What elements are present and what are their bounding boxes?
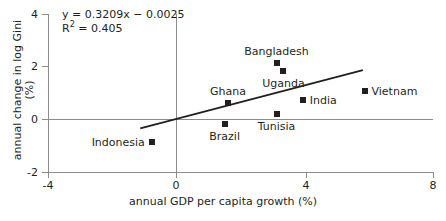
data-point-marker <box>280 68 286 74</box>
data-point-marker <box>274 111 280 117</box>
y-tick-mark <box>42 14 48 15</box>
data-point-marker <box>149 139 155 145</box>
data-point-label: Vietnam <box>372 86 418 97</box>
scatter-chart: 4 2 0 -2 -4 0 4 8 annual GDP per capita … <box>0 0 446 221</box>
data-point-marker <box>274 60 280 66</box>
y-zero-reference-line <box>48 119 433 120</box>
x-tick-label: 4 <box>303 180 310 191</box>
data-point-label: India <box>310 95 337 106</box>
y-axis-spine <box>48 14 49 172</box>
regression-annotation: y = 0.3209x − 0.0025 R2 = 0.405 <box>62 8 184 36</box>
x-zero-reference-line <box>176 14 177 172</box>
x-axis-spine <box>48 172 433 173</box>
data-point-label: Ghana <box>210 86 246 97</box>
data-point-marker <box>300 97 306 103</box>
data-point-label: Tunisia <box>258 121 296 132</box>
r-squared-prefix: R <box>62 22 70 35</box>
y-tick-mark <box>42 66 48 67</box>
x-tick-label: -4 <box>43 180 54 191</box>
x-tick-mark <box>48 172 49 178</box>
r-squared-value: R2 = 0.405 <box>62 22 184 36</box>
data-point-marker <box>225 100 231 106</box>
r-squared-number: = 0.405 <box>75 22 123 35</box>
data-point-marker <box>362 88 368 94</box>
x-tick-label: 8 <box>430 180 437 191</box>
x-tick-label: 0 <box>173 180 180 191</box>
x-tick-mark <box>306 172 307 178</box>
data-point-label: Bangladesh <box>244 46 309 57</box>
data-point-label: Indonesia <box>92 137 145 148</box>
x-tick-mark <box>176 172 177 178</box>
x-axis-title: annual GDP per capita growth (%) <box>0 196 446 208</box>
data-point-marker <box>222 121 228 127</box>
data-point-label: Uganda <box>262 78 304 89</box>
y-tick-mark <box>42 119 48 120</box>
regression-equation: y = 0.3209x − 0.0025 <box>62 8 184 22</box>
x-tick-mark <box>433 172 434 178</box>
data-point-label: Brazil <box>209 131 240 142</box>
y-axis-title: annual change in log Gini (%) <box>12 10 36 170</box>
